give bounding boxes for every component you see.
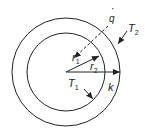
- t1-label: T1: [68, 77, 79, 91]
- r2-label: r2: [90, 60, 98, 74]
- t1-arrow: [84, 89, 93, 99]
- t2-label: T2: [128, 22, 139, 36]
- q-dot-label: q: [109, 13, 115, 24]
- shell-diagram: q · T2 r1 r2 T1 k: [0, 0, 145, 136]
- q-dot-mark: ·: [111, 3, 114, 14]
- t2-arrow: [118, 31, 127, 44]
- k-label: k: [108, 81, 114, 93]
